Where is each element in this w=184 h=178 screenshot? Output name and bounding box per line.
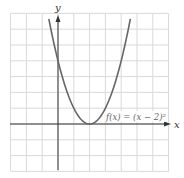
x-axis-arrow-icon [164, 122, 171, 127]
y-axis-arrow-icon [56, 15, 61, 22]
chart-area: y x f(x) = (x − 2)² [0, 0, 184, 178]
function-label: f(x) = (x − 2)² [105, 112, 166, 122]
y-axis-label: y [54, 2, 61, 13]
grid [11, 13, 169, 171]
x-axis-label: x [174, 119, 180, 130]
